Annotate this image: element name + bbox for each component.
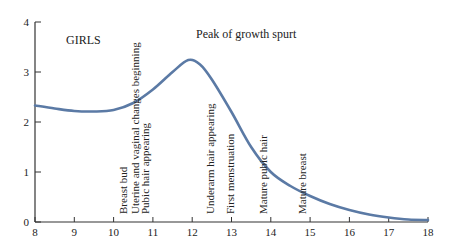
x-tick-label: 11 bbox=[148, 226, 159, 238]
panel-label: GIRLS bbox=[66, 33, 101, 47]
y-tick-label: 3 bbox=[24, 66, 30, 78]
x-tick-label: 18 bbox=[423, 226, 435, 238]
x-tick-label: 17 bbox=[383, 226, 395, 238]
y-tick-label: 4 bbox=[24, 16, 30, 28]
x-tick-label: 10 bbox=[108, 226, 120, 238]
x-tick-label: 16 bbox=[344, 226, 356, 238]
y-tick-label: 2 bbox=[24, 116, 30, 128]
x-tick-label: 13 bbox=[226, 226, 238, 238]
peak-annotation: Peak of growth spurt bbox=[196, 27, 297, 41]
milestone-label: Mature pubic hair bbox=[257, 135, 269, 214]
x-tick-label: 12 bbox=[187, 226, 198, 238]
x-tick-label: 8 bbox=[32, 226, 38, 238]
milestone-label: Pubic hair appearing bbox=[139, 122, 151, 214]
milestone-label: Breast bud bbox=[117, 166, 129, 214]
milestone-label: Mature breast bbox=[296, 153, 308, 214]
growth-chart: 8910111213141516171801234 Breast budUter… bbox=[0, 0, 452, 251]
y-tick-label: 0 bbox=[24, 216, 30, 228]
x-tick-label: 15 bbox=[305, 226, 317, 238]
x-tick-label: 14 bbox=[265, 226, 277, 238]
milestone-label: Underarm hair appearing bbox=[204, 103, 216, 214]
milestone-annotations: Breast budUterine and vaginal changes be… bbox=[117, 42, 308, 214]
milestone-label: First menstruation bbox=[224, 133, 236, 214]
y-tick-label: 1 bbox=[24, 166, 30, 178]
x-tick-label: 9 bbox=[72, 226, 78, 238]
